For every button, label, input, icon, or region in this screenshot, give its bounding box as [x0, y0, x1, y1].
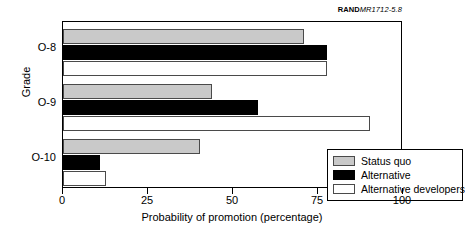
- x-axis-title: Probability of promotion (percentage): [62, 211, 402, 223]
- legend-label-status-quo: Status quo: [361, 155, 411, 167]
- bar-o8-alternative-developers: [63, 61, 327, 76]
- bar-o10-alternative-developers: [63, 171, 106, 186]
- y-tick-label-o9: O-9: [10, 96, 56, 108]
- bar-o8-alternative: [63, 45, 327, 60]
- legend-swatch-alternative: [333, 170, 355, 180]
- legend-swatch-alternative-developers: [333, 184, 355, 194]
- x-tick-label-75: 75: [297, 194, 337, 206]
- source-tag: RANDMR1712-5.8: [338, 5, 402, 14]
- source-tag-brand: RAND: [338, 5, 360, 14]
- legend-swatch-status-quo: [333, 156, 355, 166]
- legend-item-status-quo: Status quo: [333, 154, 457, 168]
- y-axis-tick-labels: O-8 O-9 O-10: [6, 21, 56, 188]
- bar-o10-alternative: [63, 155, 100, 170]
- bar-group-o9: [63, 77, 401, 132]
- x-tick-label-0: 0: [42, 194, 82, 206]
- bar-o9-alternative-developers: [63, 116, 370, 131]
- x-tick-label-100: 100: [382, 194, 422, 206]
- x-tick-label-25: 25: [127, 194, 167, 206]
- bar-o9-alternative: [63, 100, 258, 115]
- bar-group-o8: [63, 22, 401, 77]
- y-tick-label-o10: O-10: [10, 151, 56, 163]
- y-tick-label-o8: O-8: [10, 41, 56, 53]
- bar-o9-status-quo: [63, 84, 212, 99]
- bar-o10-status-quo: [63, 139, 200, 154]
- bar-o8-status-quo: [63, 29, 304, 44]
- legend-item-alternative: Alternative: [333, 168, 457, 182]
- plot-area: Status quo Alternative Alternative devel…: [62, 21, 402, 188]
- source-tag-reference: MR1712-5.8: [360, 5, 402, 14]
- x-tick-label-50: 50: [212, 194, 252, 206]
- legend-label-alternative: Alternative: [361, 169, 411, 181]
